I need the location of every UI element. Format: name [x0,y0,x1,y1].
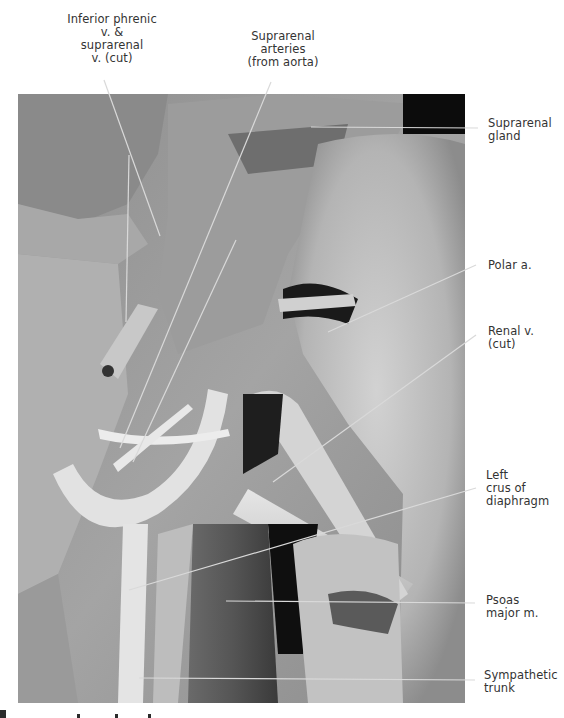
label-line: (from aorta) [233,56,333,69]
photo-rendering [18,94,465,703]
label-polar-a: Polar a. [488,259,532,272]
label-line: major m. [486,607,539,620]
cutoff-text-fragment [77,714,80,718]
label-line: diaphragm [486,495,549,508]
label-sympathetic-trunk: Sympathetic trunk [484,669,558,695]
cutoff-text-fragment [115,714,118,718]
label-line: v. (cut) [52,52,172,65]
cutoff-text-fragment [0,710,6,718]
label-renal-v: Renal v. (cut) [488,325,534,351]
label-line: Polar a. [488,259,532,272]
cutoff-text-fragment [148,714,151,718]
label-psoas: Psoas major m. [486,594,539,620]
label-suprarenal-gland: Suprarenal gland [488,117,552,143]
label-suprarenal-arteries: Suprarenal arteries (from aorta) [233,30,333,69]
label-left-crus: Left crus of diaphragm [486,469,549,508]
label-inferior-phrenic: Inferior phrenic v. & suprarenal v. (cut… [52,13,172,65]
label-line: (cut) [488,338,534,351]
dissection-photo [18,94,465,703]
label-line: gland [488,130,552,143]
label-line: trunk [484,682,558,695]
